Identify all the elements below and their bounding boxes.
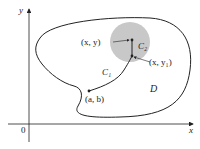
region-label: D: [150, 84, 157, 94]
origin-label: 0: [21, 126, 26, 135]
figure: y x 0 D (x, y) (x, y₁) (a, b) C₁ C₂: [0, 0, 200, 149]
curve-label-c2: C₂: [138, 42, 147, 51]
curve-label-c1: C₁: [102, 68, 111, 77]
point-xy1: [131, 55, 134, 58]
point-ab: [88, 90, 91, 93]
point-label-xy1: (x, y₁): [149, 58, 172, 67]
y-axis-label: y: [19, 6, 23, 15]
diagram-canvas: [0, 0, 200, 149]
point-label-ab: (a, b): [85, 95, 104, 104]
x-axis-label: x: [189, 126, 193, 135]
point-xy: [131, 39, 134, 42]
point-label-xy: (x, y): [81, 38, 101, 47]
